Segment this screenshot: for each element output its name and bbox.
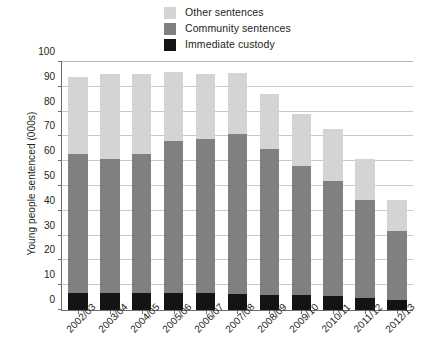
y-axis-title: Young people sentenced (000s) (26, 59, 37, 309)
legend-item-other-sentences: Other sentences (164, 6, 291, 19)
x-label-slot: 2012/13 (380, 314, 412, 358)
stacked-bar[interactable] (228, 73, 247, 310)
bar-group (62, 62, 413, 310)
legend-label-other-sentences: Other sentences (185, 6, 264, 19)
x-label-slot: 2008/09 (252, 314, 284, 358)
x-label-slot: 2011/12 (348, 314, 380, 358)
y-axis-tick-label: 70 (44, 120, 55, 131)
y-axis-tick-label: 30 (44, 219, 55, 230)
bar-segment-other-sentences (68, 77, 87, 154)
bar-segment-other-sentences (387, 200, 406, 231)
bar-segment-other-sentences (100, 74, 119, 158)
stacked-bar[interactable] (323, 129, 342, 310)
y-axis-tick-label: 0 (49, 294, 55, 305)
bar-segment-community-sentences (100, 159, 119, 293)
bar-segment-other-sentences (132, 74, 151, 153)
stacked-bar[interactable] (387, 200, 406, 310)
bar-segment-community-sentences (260, 149, 279, 295)
bar-segment-community-sentences (355, 200, 374, 298)
legend-swatch-immediate-custody (164, 39, 176, 51)
bar-slot (190, 62, 222, 310)
y-axis-tick-label: 50 (44, 170, 55, 181)
x-label-slot: 2007/08 (221, 314, 253, 358)
bar-segment-other-sentences (196, 74, 215, 138)
bar-segment-other-sentences (228, 73, 247, 134)
x-axis-labels: 2002/032003/042004/052005/062006/072007/… (61, 314, 412, 358)
bar-segment-community-sentences (228, 134, 247, 294)
bar-segment-other-sentences (323, 129, 342, 181)
stacked-bar[interactable] (100, 74, 119, 310)
chart-legend: Other sentences Community sentences Imme… (164, 6, 291, 51)
legend-item-community-sentences: Community sentences (164, 22, 291, 35)
stacked-bar[interactable] (355, 159, 374, 310)
x-label-slot: 2004/05 (125, 314, 157, 358)
y-axis-tick-label: 60 (44, 145, 55, 156)
stacked-bar[interactable] (292, 114, 311, 310)
y-axis-tick-label: 10 (44, 269, 55, 280)
bar-segment-community-sentences (164, 141, 183, 292)
plot-area: 1009080706050403020100 (61, 62, 413, 311)
bar-slot (381, 62, 413, 310)
bar-segment-community-sentences (323, 181, 342, 296)
legend-swatch-other-sentences (164, 7, 176, 19)
legend-swatch-community-sentences (164, 23, 176, 35)
legend-item-immediate-custody: Immediate custody (164, 38, 291, 51)
legend-label-community-sentences: Community sentences (185, 22, 291, 35)
chart-figure: Other sentences Community sentences Imme… (0, 0, 429, 358)
bar-slot (158, 62, 190, 310)
x-label-slot: 2010/11 (316, 314, 348, 358)
bar-segment-other-sentences (260, 94, 279, 149)
x-label-slot: 2006/07 (189, 314, 221, 358)
bar-segment-community-sentences (292, 166, 311, 295)
x-label-slot: 2003/04 (93, 314, 125, 358)
bar-slot (317, 62, 349, 310)
x-label-slot: 2005/06 (157, 314, 189, 358)
bar-segment-community-sentences (132, 154, 151, 293)
bar-slot (222, 62, 254, 310)
stacked-bar[interactable] (164, 72, 183, 310)
bar-slot (126, 62, 158, 310)
y-axis-tick-label: 90 (44, 70, 55, 81)
stacked-bar[interactable] (260, 94, 279, 310)
y-axis-tick-label: 40 (44, 194, 55, 205)
y-axis-tick-label: 100 (38, 46, 55, 57)
bar-segment-other-sentences (292, 114, 311, 166)
bar-slot (62, 62, 94, 310)
stacked-bar[interactable] (196, 74, 215, 310)
bar-segment-community-sentences (196, 139, 215, 293)
y-axis-tick-label: 20 (44, 244, 55, 255)
legend-label-immediate-custody: Immediate custody (185, 38, 275, 51)
bar-slot (253, 62, 285, 310)
bar-slot (94, 62, 126, 310)
bar-segment-other-sentences (355, 159, 374, 200)
stacked-bar[interactable] (132, 74, 151, 310)
bar-segment-community-sentences (68, 154, 87, 293)
y-axis-tick-label: 80 (44, 95, 55, 106)
stacked-bar[interactable] (68, 77, 87, 310)
x-label-slot: 2002/03 (61, 314, 93, 358)
bar-segment-community-sentences (387, 231, 406, 300)
bar-slot (349, 62, 381, 310)
x-label-slot: 2009/10 (284, 314, 316, 358)
bar-slot (285, 62, 317, 310)
bar-segment-other-sentences (164, 72, 183, 141)
